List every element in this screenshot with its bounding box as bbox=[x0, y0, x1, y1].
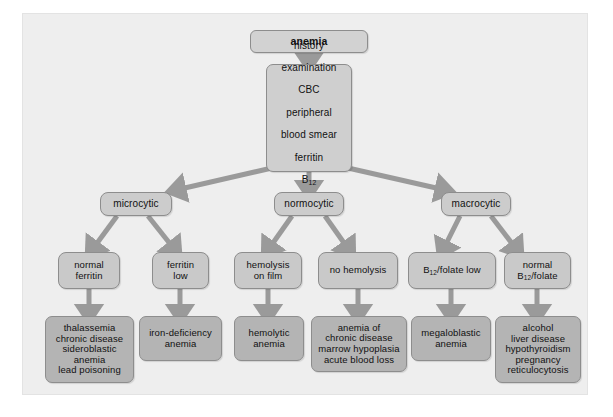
node-result-iron-deficiency-label: iron-deficiency anemia bbox=[149, 328, 212, 349]
node-result-anemia-chronic-label: anemia of chronic disease marrow hypopla… bbox=[318, 323, 399, 366]
node-hemolysis-on-film-label: hemolysis on film bbox=[246, 260, 289, 281]
node-workup-label: history examination CBC peripheral blood… bbox=[281, 29, 337, 208]
node-result-macrocytic-causes[interactable]: alcohol liver disease hypothyroidism pre… bbox=[495, 316, 581, 383]
node-macrocytic[interactable]: macrocytic bbox=[441, 192, 511, 216]
node-no-hemolysis-label: no hemolysis bbox=[330, 265, 387, 276]
node-normal-b12-folate[interactable]: normalB12/folate bbox=[504, 252, 571, 289]
node-microcytic[interactable]: microcytic bbox=[100, 192, 172, 216]
node-normal-ferritin[interactable]: normal ferritin bbox=[58, 252, 120, 289]
node-b12-folate-low-label: B12/folate low bbox=[423, 265, 481, 276]
node-normocytic-label: normocytic bbox=[284, 198, 333, 209]
node-result-megaloblastic-label: megaloblastic anemia bbox=[421, 328, 480, 349]
node-result-hemolytic[interactable]: hemolytic anemia bbox=[234, 316, 304, 361]
node-ferritin-low-label: ferritin low bbox=[167, 260, 194, 281]
node-result-megaloblastic[interactable]: megaloblastic anemia bbox=[411, 316, 491, 361]
node-normal-b12-folate-label: normalB12/folate bbox=[517, 260, 557, 281]
node-result-thalassemia-group-label: thalassemia chronic disease sideroblasti… bbox=[56, 323, 123, 376]
node-result-anemia-chronic[interactable]: anemia of chronic disease marrow hypopla… bbox=[311, 316, 407, 372]
node-normal-ferritin-label: normal ferritin bbox=[74, 260, 104, 281]
node-result-hemolytic-label: hemolytic anemia bbox=[249, 328, 290, 349]
node-hemolysis-on-film[interactable]: hemolysis on film bbox=[234, 252, 302, 289]
node-workup[interactable]: history examination CBC peripheral blood… bbox=[266, 64, 352, 172]
node-microcytic-label: microcytic bbox=[113, 198, 158, 209]
flowchart-page: anemia history examination CBC periphera… bbox=[0, 0, 613, 417]
node-result-macrocytic-causes-label: alcohol liver disease hypothyroidism pre… bbox=[505, 323, 570, 376]
node-ferritin-low[interactable]: ferritin low bbox=[152, 252, 209, 289]
node-normocytic[interactable]: normocytic bbox=[274, 192, 344, 216]
node-b12-folate-low[interactable]: B12/folate low bbox=[408, 252, 496, 289]
node-no-hemolysis[interactable]: no hemolysis bbox=[318, 252, 398, 289]
node-result-iron-deficiency[interactable]: iron-deficiency anemia bbox=[139, 316, 222, 361]
node-macrocytic-label: macrocytic bbox=[452, 198, 501, 209]
node-result-thalassemia-group[interactable]: thalassemia chronic disease sideroblasti… bbox=[45, 316, 134, 383]
